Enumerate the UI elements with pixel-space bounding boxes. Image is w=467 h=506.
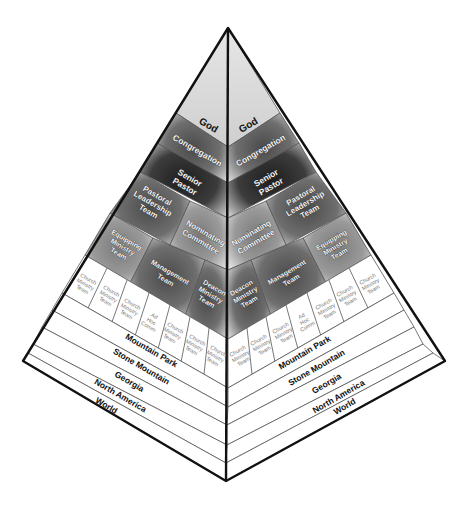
pyramid-diagram: God Congregation Senior Pastor Pastoral … xyxy=(0,0,467,506)
